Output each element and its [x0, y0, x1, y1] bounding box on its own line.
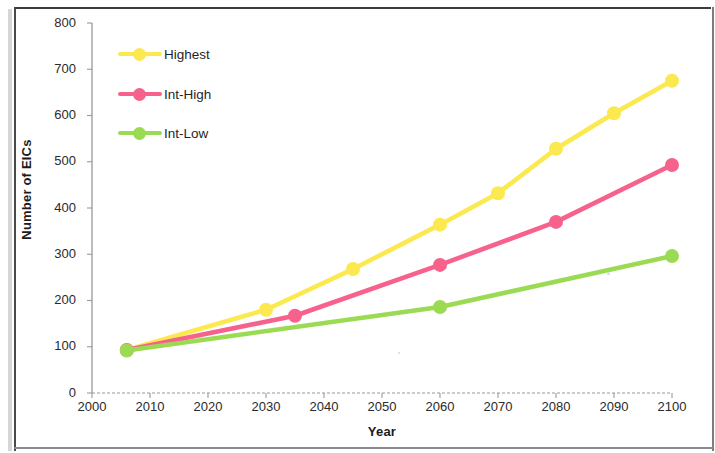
legend-label-int-high: Int-High [164, 87, 211, 102]
data-point-marker [433, 218, 447, 232]
legend-item-int-low[interactable]: Int-Low [118, 123, 208, 143]
data-point-marker [491, 186, 505, 200]
chart-page: 800 700 600 500 400 300 200 100 0 2000 2… [0, 0, 715, 453]
x-axis-title: Year [92, 424, 672, 439]
data-point-marker [665, 74, 679, 88]
y-tick-label-0: 0 [30, 385, 76, 400]
y-tick-label-600: 600 [30, 107, 76, 122]
x-tick-label-2060: 2060 [412, 399, 468, 414]
x-tick-label-2010: 2010 [122, 399, 178, 414]
y-tick-label-300: 300 [30, 246, 76, 261]
x-tick-label-2070: 2070 [470, 399, 526, 414]
y-tick-label-800: 800 [30, 15, 76, 30]
legend-item-int-high[interactable]: Int-High [118, 84, 211, 104]
legend-swatch-int-high [118, 84, 162, 104]
x-tick-label-2080: 2080 [528, 399, 584, 414]
scan-speck [607, 272, 610, 275]
data-point-marker [549, 142, 563, 156]
x-tick-label-2040: 2040 [296, 399, 352, 414]
data-point-marker [120, 343, 134, 357]
data-point-marker [433, 300, 447, 314]
data-point-marker [288, 309, 302, 323]
data-point-marker [259, 303, 273, 317]
data-point-marker [549, 215, 563, 229]
x-axis-ticks [92, 393, 672, 398]
series-line [127, 165, 672, 350]
legend-item-highest[interactable]: Highest [118, 44, 210, 64]
series-int-low [120, 249, 679, 357]
x-tick-label-2100: 2100 [644, 399, 700, 414]
line-chart: 800 700 600 500 400 300 200 100 0 2000 2… [0, 0, 715, 453]
legend-swatch-highest [118, 44, 162, 64]
data-series-layer [120, 74, 679, 358]
legend-label-highest: Highest [164, 47, 210, 62]
y-axis-ticks [87, 23, 92, 393]
plot-area [0, 0, 715, 453]
data-point-marker [346, 262, 360, 276]
data-point-marker [433, 258, 447, 272]
data-point-marker [665, 158, 679, 172]
scan-speck [398, 352, 400, 354]
y-axis-title: Number of EICs [19, 100, 34, 280]
data-point-marker [607, 106, 621, 120]
x-tick-label-2030: 2030 [238, 399, 294, 414]
y-tick-label-700: 700 [30, 61, 76, 76]
x-tick-label-2000: 2000 [64, 399, 120, 414]
series-line [127, 81, 672, 350]
legend-label-int-low: Int-Low [164, 126, 208, 141]
y-tick-label-400: 400 [30, 200, 76, 215]
y-tick-label-500: 500 [30, 153, 76, 168]
series-line [127, 256, 672, 350]
x-tick-label-2050: 2050 [354, 399, 410, 414]
y-tick-label-200: 200 [30, 292, 76, 307]
y-tick-label-100: 100 [30, 338, 76, 353]
data-point-marker [665, 249, 679, 263]
x-tick-label-2020: 2020 [180, 399, 236, 414]
legend-swatch-int-low [118, 123, 162, 143]
x-tick-label-2090: 2090 [586, 399, 642, 414]
